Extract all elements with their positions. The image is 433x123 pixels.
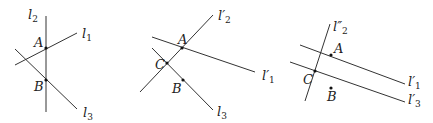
line-label-l2-prime: l′2	[218, 8, 231, 25]
point-label-B: B	[171, 81, 182, 96]
point-label-A: A	[177, 32, 187, 47]
line-label-l3: l3	[83, 105, 93, 122]
point-label-C: C	[155, 57, 165, 72]
line-label-l3: l3	[217, 104, 227, 121]
line-label-l3-prime: l′3	[408, 92, 421, 109]
point-C	[165, 61, 168, 64]
line-label-l1-prime: l′1	[262, 68, 275, 85]
point-label-B: B	[326, 89, 337, 104]
line-l1-prime	[300, 45, 405, 84]
point-B	[181, 78, 184, 81]
point-label-C: C	[303, 72, 313, 87]
line-label-l2: l2	[28, 7, 38, 24]
point-B	[44, 78, 47, 81]
line-label-l1-prime: l′1	[408, 74, 421, 91]
point-label-A: A	[33, 35, 43, 50]
panel-2: l′2l′1l3ACB	[140, 8, 275, 121]
point-C	[313, 69, 316, 72]
line-l1-prime	[152, 37, 255, 72]
point-label-B: B	[33, 79, 44, 94]
panel-3: l″2l′1l′3ACB	[290, 19, 421, 109]
geometry-figure: l2l1l3ABl′2l′1l3ACBl″2l′1l′3ACB	[0, 0, 433, 123]
point-label-A: A	[333, 41, 343, 56]
line-label-l2-double-prime: l″2	[333, 19, 348, 36]
point-A	[329, 53, 332, 56]
panel-1: l2l1l3AB	[15, 7, 93, 122]
line-label-l1: l1	[82, 26, 92, 43]
point-A	[44, 46, 47, 49]
